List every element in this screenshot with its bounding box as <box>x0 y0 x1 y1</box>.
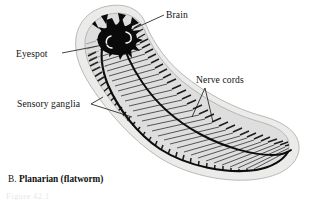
figure-number: Figure 42.1 <box>6 191 50 200</box>
planarian-figure: Brain Eyespot Sensory ganglia Nerve cord… <box>0 0 318 200</box>
label-sensory-ganglia: Sensory ganglia <box>17 99 80 109</box>
figure-caption: B.Planarian (flatworm) <box>8 174 103 184</box>
label-brain: Brain <box>166 10 188 20</box>
caption-letter: B. <box>8 174 17 184</box>
label-eyespot: Eyespot <box>16 49 48 59</box>
caption-name: Planarian (flatworm) <box>19 174 103 184</box>
label-nerve-cords: Nerve cords <box>196 75 244 85</box>
